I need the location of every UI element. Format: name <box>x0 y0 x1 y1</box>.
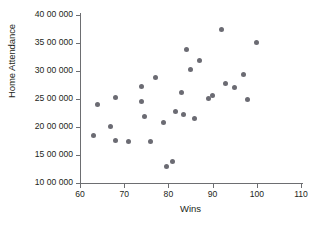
data-point <box>232 85 237 90</box>
scatter-chart: Home Attendance Wins 10 00 00015 00 0002… <box>0 0 325 226</box>
x-tick-label: 80 <box>148 189 188 199</box>
data-point <box>179 90 184 95</box>
y-tick-label: 40 00 000 <box>3 9 73 19</box>
y-tick-label: 15 00 000 <box>3 149 73 159</box>
x-tick <box>213 184 214 188</box>
x-tick <box>301 184 302 188</box>
x-tick <box>80 184 81 188</box>
x-axis-title: Wins <box>80 203 301 214</box>
data-point <box>173 109 178 114</box>
y-tick-label: 25 00 000 <box>3 93 73 103</box>
data-point <box>184 47 189 52</box>
data-point <box>113 138 118 143</box>
data-point <box>142 114 147 119</box>
x-tick <box>168 184 169 188</box>
x-tick-label: 90 <box>193 189 233 199</box>
data-point <box>113 95 118 100</box>
data-point <box>164 164 169 169</box>
data-point <box>153 75 158 80</box>
x-tick-label: 100 <box>237 189 277 199</box>
data-point <box>170 159 175 164</box>
y-tick-label: 30 00 000 <box>3 65 73 75</box>
x-axis-line <box>78 183 303 184</box>
data-point <box>197 58 202 63</box>
x-tick-label: 110 <box>281 189 321 199</box>
x-tick-label: 60 <box>60 189 100 199</box>
x-tick <box>124 184 125 188</box>
y-tick-label: 10 00 000 <box>3 177 73 187</box>
y-tick-label: 35 00 000 <box>3 37 73 47</box>
data-point <box>219 27 224 32</box>
data-point <box>254 40 259 45</box>
data-point <box>223 81 228 86</box>
x-tick-label: 70 <box>104 189 144 199</box>
data-point <box>210 93 215 98</box>
data-point <box>95 102 100 107</box>
y-tick-label: 20 00 000 <box>3 121 73 131</box>
x-tick <box>257 184 258 188</box>
